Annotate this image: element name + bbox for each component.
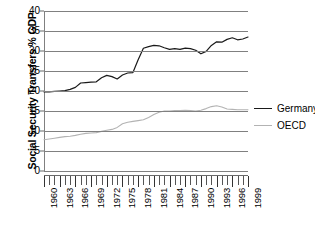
- x-axis-tick: [54, 176, 55, 185]
- legend: GermanyOECD: [254, 100, 314, 134]
- x-axis-tick-label: 1981: [158, 188, 169, 208]
- x-axis-tick: [102, 176, 103, 185]
- x-axis-tick: [248, 176, 249, 187]
- y-axis-tick-label: 35: [29, 26, 40, 36]
- x-axis-tick: [175, 176, 176, 185]
- x-axis-tick: [227, 176, 228, 185]
- x-axis-tick: [128, 176, 129, 185]
- gridline: [44, 111, 248, 112]
- plot-area: [44, 11, 248, 171]
- y-axis-tick: [40, 51, 44, 52]
- x-axis-tick: [196, 176, 197, 185]
- y-axis-tick: [40, 151, 44, 152]
- x-axis-tick-label: 1966: [79, 188, 90, 208]
- x-axis-tick-label: 1993: [221, 188, 232, 208]
- x-axis-tick: [180, 176, 181, 185]
- y-axis-tick-label: 10: [29, 126, 40, 136]
- x-axis-tick: [238, 176, 239, 185]
- x-axis-tick: [201, 176, 202, 187]
- y-axis-tick: [40, 131, 44, 132]
- x-axis-tick-label: 1960: [48, 188, 59, 208]
- legend-swatch-germany: [254, 108, 272, 109]
- x-axis-tick: [164, 176, 165, 185]
- x-axis-tick: [149, 176, 150, 185]
- x-axis-tick: [211, 176, 212, 185]
- x-axis-tick: [190, 176, 191, 185]
- x-axis-tick-labels: 1960196319661969197219751978198119841987…: [44, 188, 248, 233]
- x-axis-ticks: [44, 176, 248, 187]
- gridline: [44, 91, 248, 92]
- x-axis-tick: [81, 176, 82, 185]
- x-axis-tick: [60, 176, 61, 187]
- x-axis-tick: [217, 176, 218, 187]
- gridline: [44, 11, 248, 12]
- x-axis-tick-label: 1969: [95, 188, 106, 208]
- x-axis-tick-label: 1999: [252, 188, 263, 208]
- y-axis-tick: [40, 171, 44, 172]
- x-axis-tick-label: 1978: [142, 188, 153, 208]
- legend-item-oecd: OECD: [254, 117, 314, 134]
- gridline: [44, 131, 248, 132]
- legend-label: Germany: [277, 103, 315, 114]
- legend-label: OECD: [277, 120, 306, 131]
- y-axis-tick: [40, 31, 44, 32]
- gridline: [44, 171, 248, 172]
- y-axis-tick-labels: 0510152025303540: [14, 0, 40, 233]
- x-axis-tick-label: 1975: [126, 188, 137, 208]
- x-axis-tick: [243, 176, 244, 185]
- chart-container: Social Security Transfers % GDP 05101520…: [0, 0, 315, 233]
- series-line-germany: [44, 37, 248, 92]
- y-axis-tick: [40, 111, 44, 112]
- y-axis-tick: [40, 91, 44, 92]
- legend-item-germany: Germany: [254, 100, 314, 117]
- x-axis-tick: [70, 176, 71, 185]
- gridline: [44, 151, 248, 152]
- x-axis-tick: [75, 176, 76, 187]
- y-axis-tick-label: 20: [29, 86, 40, 96]
- legend-swatch-oecd: [254, 125, 272, 126]
- y-axis-tick: [40, 11, 44, 12]
- gridline: [44, 31, 248, 32]
- x-axis-tick: [112, 176, 113, 185]
- x-axis-tick: [133, 176, 134, 185]
- x-axis-tick: [138, 176, 139, 187]
- x-axis-tick: [122, 176, 123, 187]
- x-axis-tick-label: 1990: [205, 188, 216, 208]
- x-axis-tick: [170, 176, 171, 187]
- y-axis-tick-label: 30: [29, 46, 40, 56]
- x-axis-tick-label: 1963: [64, 188, 75, 208]
- x-axis-tick: [185, 176, 186, 187]
- x-axis-tick: [44, 176, 45, 187]
- x-axis-tick: [96, 176, 97, 185]
- y-axis-tick: [40, 71, 44, 72]
- x-axis-tick: [143, 176, 144, 185]
- x-axis-tick-label: 1996: [236, 188, 247, 208]
- y-axis-tick-label: 40: [29, 6, 40, 16]
- y-axis-tick-label: 15: [29, 106, 40, 116]
- x-axis-tick: [232, 176, 233, 187]
- x-axis-tick: [159, 176, 160, 185]
- x-axis-tick: [206, 176, 207, 185]
- gridline: [44, 51, 248, 52]
- gridline: [44, 71, 248, 72]
- x-axis-tick: [86, 176, 87, 185]
- x-axis-tick: [107, 176, 108, 187]
- x-axis-tick-label: 1987: [189, 188, 200, 208]
- x-axis-tick: [65, 176, 66, 185]
- x-axis-tick: [91, 176, 92, 187]
- x-axis-tick-label: 1984: [174, 188, 185, 208]
- x-axis-tick: [49, 176, 50, 185]
- x-axis-tick-label: 1972: [111, 188, 122, 208]
- y-axis-tick-label: 25: [29, 66, 40, 76]
- x-axis-tick: [222, 176, 223, 185]
- x-axis-tick: [117, 176, 118, 185]
- x-axis-tick: [154, 176, 155, 187]
